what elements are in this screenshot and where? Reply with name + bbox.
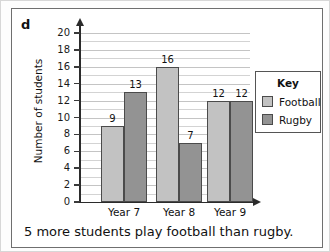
y-axis-tick-label: 10 — [44, 113, 70, 123]
y-axis-tick-label: 20 — [44, 28, 70, 38]
bar-rugby-year-9 — [230, 101, 253, 202]
y-axis-tick — [74, 32, 80, 34]
legend-label: Football — [279, 96, 321, 108]
y-axis-title: Number of students — [32, 46, 44, 176]
x-axis-label-year-9: Year 9 — [200, 206, 260, 218]
bar-rugby-year-8 — [179, 143, 202, 202]
x-axis-arrow-icon — [253, 198, 261, 206]
outer-frame: d 20181614121086420 Number of students Y… — [0, 0, 330, 252]
y-axis-tick — [74, 66, 80, 68]
y-axis-line — [79, 25, 81, 203]
bar-value-label: 7 — [174, 130, 207, 141]
gridline — [80, 41, 250, 42]
y-axis-tick — [74, 167, 80, 169]
bar-football-year-9 — [207, 101, 230, 202]
exercise-panel: d 20181614121086420 Number of students Y… — [11, 8, 323, 248]
y-axis-tick-label: 14 — [44, 79, 70, 89]
y-axis-tick — [74, 134, 80, 136]
legend-item-rugby: Rugby — [256, 113, 320, 126]
gridline — [80, 33, 250, 34]
x-axis-label-year-7: Year 7 — [94, 206, 154, 218]
y-axis-tick-label: 6 — [44, 146, 70, 156]
legend-items: FootballRugby — [256, 95, 320, 126]
y-axis-tick-label: 18 — [44, 45, 70, 55]
bar-value-label: 16 — [151, 54, 184, 65]
bar-football-year-7 — [101, 126, 124, 202]
y-axis-tick-label: 8 — [44, 129, 70, 139]
y-axis-tick — [74, 184, 80, 186]
y-axis-tick — [74, 151, 80, 153]
y-axis-tick-label: 0 — [44, 197, 70, 207]
y-axis-tick-labels: 20181614121086420 — [42, 9, 70, 209]
bar-value-label: 12 — [225, 88, 258, 99]
bar-rugby-year-7 — [124, 92, 147, 202]
y-axis-tick — [74, 100, 80, 102]
y-axis-tick — [74, 117, 80, 119]
y-axis-tick-label: 12 — [44, 96, 70, 106]
part-letter: d — [21, 17, 30, 32]
y-axis-tick-label: 16 — [44, 62, 70, 72]
y-axis-arrow-icon — [76, 18, 84, 26]
legend-title: Key — [256, 77, 320, 89]
bar-value-label: 13 — [119, 79, 152, 90]
y-axis-tick — [74, 49, 80, 51]
gridline — [80, 50, 250, 51]
legend-swatch-football — [262, 96, 273, 107]
legend-label: Rugby — [279, 114, 312, 126]
y-axis-tick-label: 2 — [44, 180, 70, 190]
y-axis-tick — [74, 83, 80, 85]
answer-caption: 5 more students play football than rugby… — [24, 224, 293, 239]
legend-item-football: Football — [256, 95, 320, 108]
chart-legend: Key FootballRugby — [255, 71, 321, 133]
legend-swatch-rugby — [262, 114, 273, 125]
y-axis-tick-label: 4 — [44, 163, 70, 173]
